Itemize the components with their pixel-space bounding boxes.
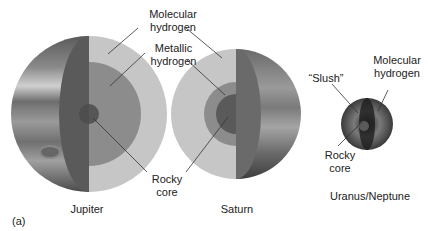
saturn-cutaway xyxy=(171,49,301,179)
label-line: hydrogen xyxy=(143,21,203,34)
planet-name-uranus-neptune: Uranus/Neptune xyxy=(330,190,410,203)
uranus-neptune-sphere xyxy=(341,98,393,150)
panel-label: (a) xyxy=(12,215,25,228)
metallic-hydrogen-label: Metallic hydrogen xyxy=(146,42,201,68)
label-line: Rocky xyxy=(322,149,358,162)
planet-name-saturn: Saturn xyxy=(212,203,262,216)
label-line: Molecular xyxy=(143,8,203,21)
un-molecular-hydrogen-label: Molecular hydrogen xyxy=(369,54,425,80)
label-line: core xyxy=(148,186,186,199)
label-line: Molecular xyxy=(369,54,425,67)
label-line: Rocky xyxy=(148,173,186,186)
rocky-core-label: Rocky core xyxy=(148,173,186,199)
molecular-hydrogen-label: Molecular hydrogen xyxy=(143,8,203,34)
label-line: Metallic xyxy=(146,42,201,55)
planet-name-jupiter: Jupiter xyxy=(62,203,112,216)
slush-label: “Slush” xyxy=(306,72,346,85)
label-line: hydrogen xyxy=(146,55,201,68)
un-rocky-core-label: Rocky core xyxy=(322,149,358,175)
label-line: core xyxy=(322,162,358,175)
label-line: hydrogen xyxy=(369,67,425,80)
